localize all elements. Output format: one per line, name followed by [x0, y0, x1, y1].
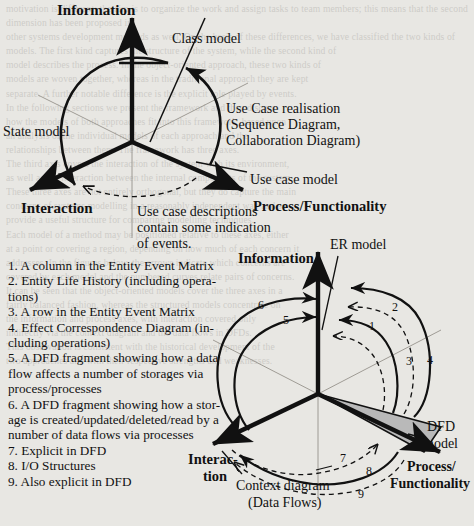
curve-number-5: 5: [283, 313, 289, 328]
list-item: 5. A DFD fragment showing how a data flo…: [8, 350, 244, 396]
bottom-curve-7-path: [232, 444, 378, 475]
figure-root: motivation is different: the aim is to o…: [0, 0, 474, 526]
curve-number-7: 7: [340, 451, 346, 466]
curve-number-6: 6: [258, 298, 264, 313]
top-axis-process: [132, 142, 243, 190]
list-item: 3. A row in the Entity Event Matrix: [8, 304, 244, 319]
top-label-use-case-descriptions-l3: of events.: [137, 236, 191, 252]
top-label-information: Information: [57, 2, 135, 19]
bottom-label-process-l1: Process/: [407, 459, 456, 475]
bottom-label-context-diagram-l1: Context diagram: [236, 478, 330, 494]
curve-number-9: 9: [358, 487, 364, 502]
bottom-label-dfd-model-l1: DFD: [427, 419, 455, 435]
bottom-label-process-l2: Functionality: [390, 476, 470, 492]
top-label-process-functionality: Process/Functionality: [253, 198, 386, 214]
list-item: 6. A DFD fragment showing how a stor- ag…: [8, 397, 244, 443]
bottom-label-interaction-l1: Interac-: [188, 451, 238, 467]
top-label-use-case-realisation-l2: (Sequence Diagram,: [226, 117, 340, 133]
list-item: 1. A column in the Entity Event Matrix: [8, 258, 244, 273]
top-label-interaction: Interaction: [21, 200, 93, 217]
use-case-model-leader-line: [196, 162, 247, 172]
er-model-leader-line: [322, 256, 338, 330]
top-label-use-case-realisation-l3: Collaboration Diagram): [226, 133, 360, 149]
top-axis-interaction: [30, 142, 132, 190]
list-item: 4. Effect Correspondence Diagram (in- cl…: [8, 320, 244, 351]
bottom-label-context-diagram-l2: (Data Flows): [248, 495, 322, 511]
top-label-use-case-descriptions-l1: Use case descriptions: [137, 204, 258, 220]
top-label-use-case-realisation-l1: Use Case realisation: [226, 101, 340, 117]
top-label-class-model: Class model: [172, 31, 241, 47]
bottom-label-dfd-model-l2: model: [423, 436, 458, 452]
curve-number-8: 8: [366, 464, 372, 479]
bottom-label-interaction-l2: tion: [203, 468, 227, 484]
curve-number-4: 4: [427, 353, 433, 368]
top-label-use-case-model: Use case model: [250, 172, 338, 188]
use-case-realisation-arc: [186, 68, 220, 165]
bottom-label-information: Information: [238, 250, 314, 266]
curve-number-2: 2: [392, 300, 398, 315]
bottom-axis-back-thin: [318, 330, 441, 394]
curve-number-3: 3: [406, 354, 412, 369]
use-case-description-arc: [83, 178, 196, 197]
curve-number-1: 1: [369, 319, 375, 334]
top-label-state-model: State model: [3, 124, 70, 140]
bottom-label-er-model: ER model: [330, 237, 386, 253]
top-label-use-case-descriptions-l2: contain some indication: [137, 220, 271, 236]
list-item: 2. Entity Life History (including opera-…: [8, 273, 244, 304]
